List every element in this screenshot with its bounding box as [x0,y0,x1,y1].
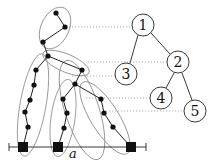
ellipse-top [33,2,77,54]
tree-label-5: 5 [191,103,200,119]
tree-label-4: 4 [157,90,166,106]
diagram-canvas: 1 2 3 4 5 a [0,0,214,162]
tree-label-2: 2 [174,54,183,70]
chain-points [22,10,115,130]
ellipse-left [11,52,55,159]
tree-label-1: 1 [139,17,148,33]
axis-line [9,143,146,151]
axis-label-a: a [69,146,77,161]
tree-label-3: 3 [122,66,131,82]
